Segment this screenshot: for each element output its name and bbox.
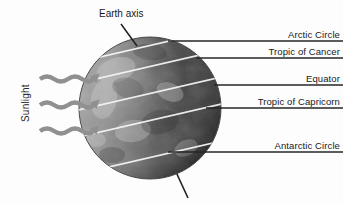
sunlight-label: Sunlight — [20, 84, 31, 122]
label-tropic-of-capricorn: Tropic of Capricorn — [258, 96, 340, 107]
label-arctic-circle: Arctic Circle — [288, 29, 340, 40]
earth-axis-line-bottom — [176, 172, 188, 198]
diagram-canvas: Earth axis Sunlight Arctic Circle Tropic… — [0, 0, 343, 204]
earth-axis-label: Earth axis — [99, 8, 143, 19]
label-tropic-of-cancer: Tropic of Cancer — [269, 46, 340, 57]
label-equator: Equator — [306, 73, 340, 84]
label-antarctic-circle: Antarctic Circle — [275, 140, 340, 151]
